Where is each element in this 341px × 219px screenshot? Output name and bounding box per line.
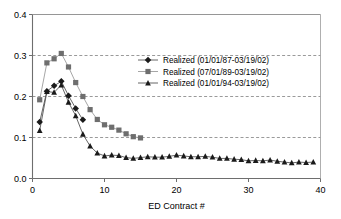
data-point-2 (80, 131, 86, 137)
x-tick-label: 0 (30, 185, 35, 195)
chart-container: 0.00.10.20.30.4010203040ED Contract #Rea… (0, 0, 341, 219)
line-chart: 0.00.10.20.30.4010203040ED Contract #Rea… (0, 0, 341, 219)
legend-label-1: Realized (07/01/89-03/19/02) (163, 68, 269, 77)
data-point-2 (87, 143, 93, 149)
legend-label-0: Realized (01/01/87-03/19/02) (163, 56, 269, 65)
y-tick-label: 0.1 (14, 133, 27, 143)
data-point-1 (66, 64, 71, 69)
data-point-1 (131, 134, 136, 139)
data-point-1 (109, 125, 114, 130)
x-axis-title: ED Contract # (148, 201, 205, 211)
data-point-1 (116, 128, 121, 133)
data-point-1 (59, 51, 64, 56)
data-point-1 (88, 107, 93, 112)
data-point-1 (52, 56, 57, 61)
data-point-1 (138, 135, 143, 140)
data-point-0 (80, 117, 87, 124)
data-point-2 (296, 159, 302, 165)
x-tick-label: 30 (243, 185, 253, 195)
data-point-2 (202, 153, 208, 159)
data-point-2 (145, 154, 151, 160)
data-point-2 (310, 159, 316, 165)
legend-label-2: Realized (01/01/94-03/19/02) (163, 79, 269, 88)
data-point-2 (109, 152, 115, 158)
data-point-2 (37, 127, 43, 133)
x-tick-label: 10 (99, 185, 109, 195)
legend-marker-1 (145, 69, 150, 74)
data-point-1 (102, 122, 107, 127)
y-tick-label: 0.3 (14, 51, 27, 61)
data-point-1 (95, 117, 100, 122)
data-point-2 (267, 157, 273, 163)
y-tick-label: 0.2 (14, 92, 27, 102)
series-line-1 (40, 53, 141, 137)
data-point-1 (80, 94, 85, 99)
x-tick-label: 40 (315, 185, 325, 195)
data-point-1 (44, 60, 49, 65)
legend-marker-0 (145, 57, 152, 64)
data-point-1 (124, 131, 129, 136)
data-point-2 (73, 113, 79, 119)
y-tick-label: 0.0 (14, 174, 27, 184)
data-point-1 (37, 97, 42, 102)
data-point-1 (73, 80, 78, 85)
data-point-2 (253, 157, 259, 163)
y-tick-label: 0.4 (14, 10, 27, 20)
x-tick-label: 20 (171, 185, 181, 195)
data-point-2 (174, 152, 180, 158)
data-point-0 (51, 83, 58, 90)
